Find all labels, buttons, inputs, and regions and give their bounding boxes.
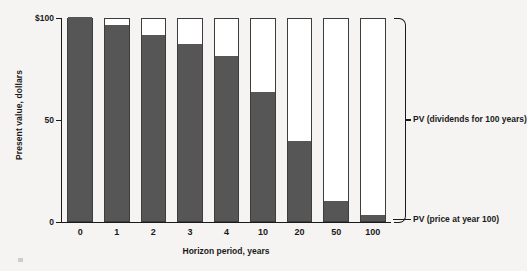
x-tick-label: 10 bbox=[243, 228, 283, 237]
bar-column bbox=[104, 18, 130, 222]
bar-segment-dividends bbox=[288, 141, 312, 221]
x-axis-line bbox=[61, 222, 391, 223]
legend-entry-dividends: PV (dividends for 100 years) bbox=[413, 114, 527, 124]
bar-segment-dividends bbox=[142, 35, 166, 221]
x-tick-label: 0 bbox=[60, 228, 100, 237]
bar-segment-dividends bbox=[361, 215, 385, 221]
legend-brace-pointer-icon bbox=[405, 119, 411, 121]
bar-total-outline bbox=[177, 18, 203, 222]
bar-segment-dividends bbox=[178, 44, 202, 221]
legend-entry-price: PV (price at year 100) bbox=[413, 214, 499, 224]
bar-total-outline bbox=[287, 18, 313, 222]
x-tick-label: 1 bbox=[97, 228, 137, 237]
bar-column bbox=[250, 18, 276, 222]
x-tick-label: 50 bbox=[316, 228, 356, 237]
bar-column bbox=[214, 18, 240, 222]
bar-segment-dividends bbox=[324, 201, 348, 221]
bar-total-outline bbox=[104, 18, 130, 222]
x-axis-title: Horizon period, years bbox=[0, 246, 452, 256]
bar-column bbox=[67, 18, 93, 222]
bar-column bbox=[323, 18, 349, 222]
bar-chart: Present value, dollars $100500 012341020… bbox=[0, 0, 527, 271]
bar-segment-dividends bbox=[215, 56, 239, 221]
x-tick-label: 4 bbox=[207, 228, 247, 237]
bar-total-outline bbox=[214, 18, 240, 222]
y-tick-label: 0 bbox=[49, 218, 54, 227]
bar-column bbox=[287, 18, 313, 222]
bar-column bbox=[141, 18, 167, 222]
y-tick-label: 50 bbox=[45, 116, 54, 125]
bar-total-outline bbox=[141, 18, 167, 222]
plot-area bbox=[62, 18, 391, 222]
bar-total-outline bbox=[250, 18, 276, 222]
x-tick-label: 100 bbox=[353, 228, 393, 237]
y-tick-mark bbox=[56, 222, 62, 223]
y-tick-label: $100 bbox=[35, 14, 54, 23]
page-artifact-mark bbox=[18, 258, 23, 262]
y-axis-title-text: Present value, dollars bbox=[14, 40, 24, 190]
x-tick-label: 3 bbox=[170, 228, 210, 237]
bar-column bbox=[360, 18, 386, 222]
bar-segment-dividends bbox=[105, 25, 129, 221]
bar-total-outline bbox=[360, 18, 386, 222]
bar-total-outline bbox=[323, 18, 349, 222]
bar-total-outline bbox=[67, 18, 93, 222]
bar-segment-dividends bbox=[251, 92, 275, 221]
x-tick-label: 2 bbox=[133, 228, 173, 237]
x-tick-label: 20 bbox=[280, 228, 320, 237]
legend-leader-line-icon bbox=[393, 219, 411, 220]
bar-column bbox=[177, 18, 203, 222]
bar-segment-dividends bbox=[68, 17, 92, 221]
y-axis-title: Present value, dollars bbox=[14, 0, 24, 40]
